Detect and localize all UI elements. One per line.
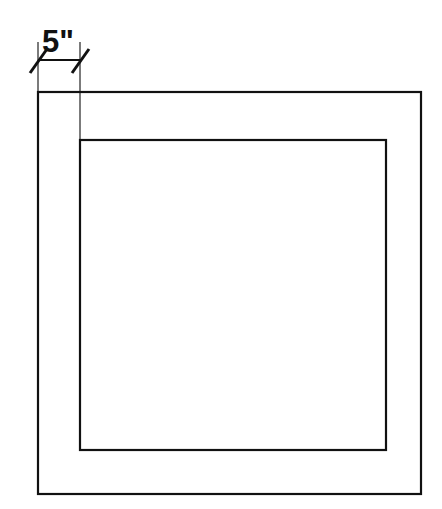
outer-square	[38, 92, 421, 494]
dimension-label: 5"	[42, 24, 74, 59]
drawing-svg-root: 5"	[0, 0, 442, 509]
technical-drawing-canvas: 5"	[0, 0, 442, 509]
inner-square	[80, 140, 386, 450]
